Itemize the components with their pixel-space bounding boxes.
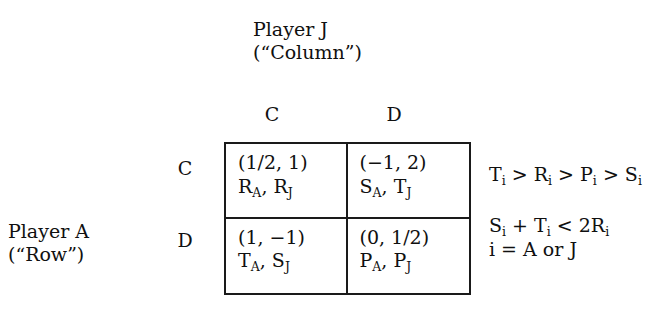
cell-symbol-separator: , [382,175,394,197]
cell-symbol-row-sub: A [251,259,260,274]
cell-symbol-row: P [360,249,373,271]
cell-symbols: TA, SJ [238,249,346,273]
cell-symbol-col: R [273,175,287,197]
row-player-role: (“Row”) [8,243,89,266]
inequality-part-0: S [489,214,502,236]
cell-symbol-col-sub: J [285,259,290,274]
row-player-caption: Player A (“Row”) [8,220,89,266]
cell-symbols: RA, RJ [238,175,346,199]
inequality-sub-2: i [605,223,609,238]
ordering-term-0: T [489,163,502,185]
condition-inequality: Si + Ti < 2Ri [489,214,642,238]
matrix-cell-cc: (1/2, 1) RA, RJ [226,144,348,219]
payoff-matrix-grid: (1/2, 1) RA, RJ (−1, 2) SA, TJ (1, −1) T… [224,142,471,295]
cell-symbol-row-sub: A [372,259,381,274]
condition-ordering: Ti > Ri > Pi > Si [489,163,642,187]
cell-payoff: (0, 1/2) [360,226,470,250]
column-player-name: Player J [253,18,362,41]
cell-symbol-col-sub: J [406,259,411,274]
cell-symbols: PA, PJ [360,249,470,273]
conditions-block: Ti > Ri > Pi > Si Si + Ti < 2Ri i = A or… [489,163,642,262]
cell-symbol-row: S [360,175,373,197]
cell-symbol-separator: , [260,249,272,271]
inequality-part-2: T [534,214,547,236]
inequality-part-1: + [506,214,534,236]
ordering-relation-1: > [552,163,580,185]
matrix-cell-cd: (−1, 2) SA, TJ [348,144,470,219]
cell-symbol-separator: , [261,175,273,197]
cell-symbol-row: R [238,175,252,197]
column-header-d: D [364,103,424,125]
cell-symbol-col-sub: J [406,184,411,199]
row-header-d: D [172,229,198,251]
cell-symbol-col: S [272,249,285,271]
column-header-c: C [242,103,302,125]
matrix-cell-dd: (0, 1/2) PA, PJ [348,219,470,294]
cell-payoff: (1, −1) [238,226,346,250]
matrix-cell-dc: (1, −1) TA, SJ [226,219,348,294]
cell-payoff: (−1, 2) [360,151,470,175]
cell-symbols: SA, TJ [360,175,470,199]
cell-symbol-col-sub: J [288,184,293,199]
cell-symbol-row-sub: A [373,184,382,199]
payoff-matrix-figure: Player J (“Column”) C D Player A (“Row”)… [0,0,649,311]
cell-symbol-row: T [238,249,251,271]
condition-index-definition: i = A or J [489,238,642,262]
ordering-term-3: S [625,163,638,185]
cell-payoff: (1/2, 1) [238,151,346,175]
ordering-relation-0: > [506,163,534,185]
column-player-role: (“Column”) [253,41,362,64]
cell-symbol-col: P [393,249,406,271]
ordering-term-2: P [580,163,593,185]
row-header-c: C [172,157,198,179]
row-player-name: Player A [8,220,89,243]
ordering-term-1: R [534,163,548,185]
column-player-caption: Player J (“Column”) [253,18,362,64]
cell-symbol-separator: , [381,249,393,271]
cell-symbol-col: T [394,175,407,197]
ordering-relation-2: > [597,163,625,185]
inequality-part-3: < 2R [551,214,605,236]
ordering-sub-3: i [638,173,642,188]
